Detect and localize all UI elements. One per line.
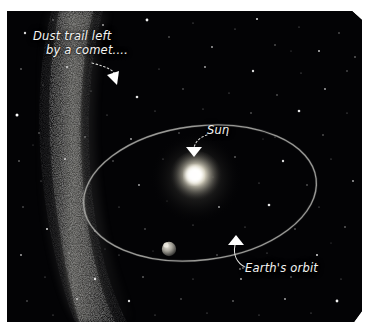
space-scene (7, 11, 362, 322)
sun-label-text: Sun (207, 123, 229, 137)
annotation-label-earths-orbit: Earth's orbit (245, 261, 318, 275)
annotation-label-dust-trail: Dust trail left by a comet.... (33, 29, 128, 57)
earth-body (162, 242, 176, 256)
dust-trail-label-line2: by a comet.... (33, 43, 128, 57)
annotation-label-sun: Sun (207, 123, 229, 137)
clipped-text-strip (0, 0, 368, 11)
earths-orbit-label-text: Earth's orbit (245, 261, 318, 275)
illustration-plate: Dust trail left by a comet.... Sun Earth… (7, 11, 362, 322)
sun-body (150, 132, 242, 224)
dust-trail-label-line1: Dust trail left (33, 29, 111, 43)
